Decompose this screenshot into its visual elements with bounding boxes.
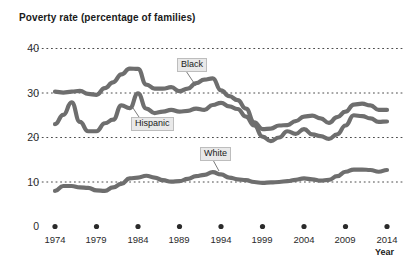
x-tick-dot-1999 (260, 224, 265, 229)
series-line-black (55, 69, 387, 130)
x-tick-dot-1984 (135, 224, 140, 229)
x-tick-dot-2004 (301, 224, 306, 229)
x-tick-dot-1974 (52, 224, 57, 229)
series-line-white (55, 170, 387, 191)
x-tick-dot-1989 (177, 224, 182, 229)
series-label-hispanic: Hispanic (131, 117, 174, 131)
series-label-white: White (200, 147, 231, 161)
leader-line-hispanic (131, 105, 139, 117)
leader-line-white (213, 160, 219, 171)
x-tick-dot-2014 (384, 224, 389, 229)
x-tick-dot-1994 (218, 224, 223, 229)
x-tick-dot-2009 (343, 224, 348, 229)
chart-plot-area (0, 0, 415, 261)
series-label-black: Black (177, 58, 207, 72)
x-tick-dot-1979 (94, 224, 99, 229)
chart-figure: Poverty rate (percentage of families) 40… (0, 0, 415, 261)
